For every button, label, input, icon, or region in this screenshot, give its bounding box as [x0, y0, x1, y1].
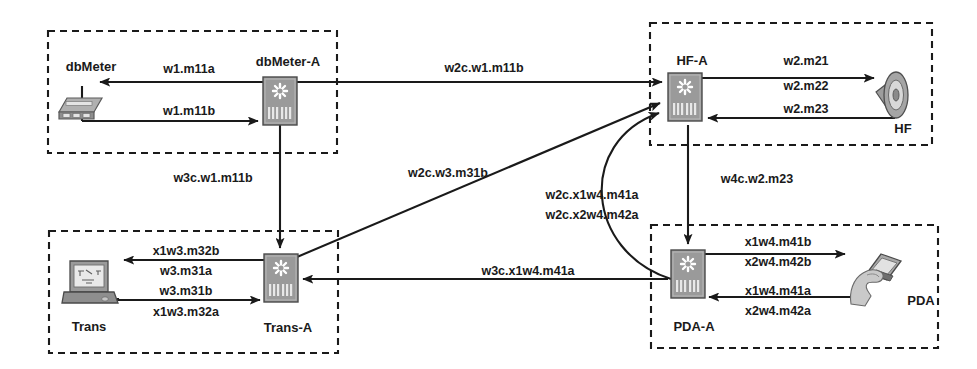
- hf-speaker-icon: [876, 72, 908, 118]
- link-label-w2c-x2w4-m42a: w2c.x2w4.m42a: [544, 208, 639, 222]
- link-label-w3-m31a: w3.m31a: [159, 264, 213, 278]
- link-label-w2-m21: w2.m21: [782, 54, 828, 68]
- dbmeter-a-switch-icon: [263, 77, 297, 125]
- node-label-trans-a: Trans-A: [264, 320, 313, 335]
- link-label-w2c-w3-m31b: w2c.w3.m31b: [407, 166, 488, 180]
- link-label-w2c-w1-m11b: w2c.w1.m11b: [443, 61, 524, 75]
- node-label-trans: Trans: [72, 319, 107, 334]
- pda-a-switch-icon: [671, 250, 705, 298]
- node-label-pda: PDA: [907, 293, 935, 308]
- link-label-x1w3-m32b: x1w3.m32b: [153, 244, 220, 258]
- node-label-dbmeter: dbMeter: [66, 59, 117, 74]
- link-label-x1w3-m32a: x1w3.m32a: [153, 305, 220, 319]
- link-label-x1w4-m41a: x1w4.m41a: [745, 284, 812, 298]
- link-label-w2-m23: w2.m23: [782, 102, 828, 116]
- network-diagram-canvas: dbMeter dbMeter-A HF-A HF Trans Trans-A …: [0, 0, 977, 369]
- link-label-w3c-x1w4-m41a: w3c.x1w4.m41a: [480, 264, 575, 278]
- link-label-w2-m22: w2.m22: [782, 79, 828, 93]
- node-label-pda-a: PDA-A: [673, 319, 715, 334]
- trans-laptop-icon: [62, 261, 118, 303]
- link-label-w2c-x1w4-m41a: w2c.x1w4.m41a: [544, 188, 639, 202]
- dbmeter-icon: [59, 98, 102, 119]
- link-label-w4c-w2-m23: w4c.w2.m23: [720, 172, 793, 186]
- node-label-dbmeter-a: dbMeter-A: [256, 54, 321, 69]
- node-label-hf: HF: [894, 121, 911, 136]
- link-label-x2w4-m42a: x2w4.m42a: [745, 304, 812, 318]
- link-label-w3c-w1-m11b: w3c.w1.m11b: [172, 171, 253, 185]
- link-label-x1w4-m41b: x1w4.m41b: [745, 235, 812, 249]
- link-label-w1-m11a: w1.m11a: [162, 62, 215, 76]
- hf-a-switch-icon: [668, 73, 702, 121]
- pda-hand-icon: [851, 254, 902, 306]
- trans-a-switch-icon: [264, 254, 298, 302]
- network-diagram: dbMeter dbMeter-A HF-A HF Trans Trans-A …: [0, 0, 977, 369]
- link-label-w1-m11b: w1.m11b: [162, 104, 215, 118]
- link-label-x2w4-m42b: x2w4.m42b: [745, 255, 812, 269]
- link-label-w3-m31b: w3.m31b: [159, 284, 213, 298]
- node-label-hf-a: HF-A: [676, 53, 708, 68]
